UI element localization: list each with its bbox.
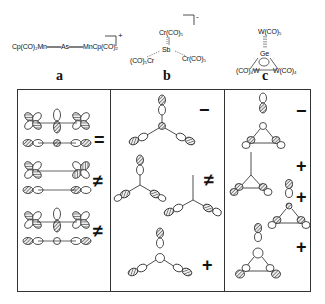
panel-a-symbol-2: ≠ bbox=[93, 172, 103, 190]
structure-b-label: b bbox=[163, 68, 171, 84]
structure-c-right: W(CO)₄ bbox=[273, 67, 296, 74]
panel-divider-ab bbox=[110, 89, 111, 292]
panel-a-symbol-3: ≠ bbox=[93, 222, 103, 240]
structure-c-left: (CO)₄W bbox=[236, 67, 259, 74]
structure-b-charge: - bbox=[196, 12, 198, 21]
structure-b-center: Sb bbox=[162, 46, 170, 53]
panel-b-symbol-3: + bbox=[202, 256, 213, 274]
structure-a-label: a bbox=[56, 68, 63, 84]
panel-a-symbol-1: = bbox=[94, 131, 105, 149]
panel-divider-bc bbox=[224, 89, 225, 292]
panel-b-symbol-1: − bbox=[199, 101, 210, 119]
structure-b-right: Cr(CO)₅ bbox=[182, 55, 206, 62]
panel-c-symbol-1: − bbox=[296, 102, 307, 120]
structure-c-center: Ge bbox=[260, 50, 269, 57]
structure-a-charge: + bbox=[118, 31, 122, 40]
panel-c-symbol-3: + bbox=[296, 188, 307, 206]
structure-c-top: W(CO)₅ bbox=[258, 28, 281, 35]
panel-b-symbol-2: ≠ bbox=[204, 171, 214, 189]
structure-b-top: Cr(CO)₅ bbox=[159, 29, 183, 36]
panel-c-symbol-2: + bbox=[296, 157, 307, 175]
structure-c-label: c bbox=[262, 68, 268, 84]
structure-b-left: (CO)₅Cr bbox=[130, 57, 154, 64]
orbital-panel-frame bbox=[17, 89, 311, 292]
panel-c-symbol-4: + bbox=[296, 238, 307, 256]
structure-a-formula: Cp(CO)₂Mn═══As═══MnCp(CO)₂ bbox=[12, 43, 118, 50]
